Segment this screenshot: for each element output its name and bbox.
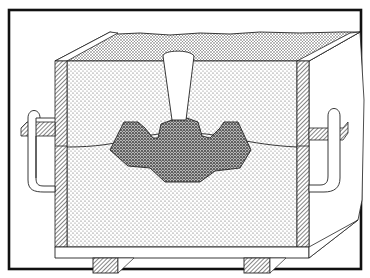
foot-right	[244, 258, 270, 273]
flask-wall-left	[55, 61, 67, 247]
mold-illustration	[0, 0, 370, 278]
clamp-bar-left	[21, 122, 55, 136]
foot-left	[93, 258, 118, 273]
diagram-canvas: Sand casting mold cross-section Flask (c…	[0, 0, 370, 278]
flask-wall-right	[297, 61, 309, 247]
base-plate	[55, 247, 309, 258]
